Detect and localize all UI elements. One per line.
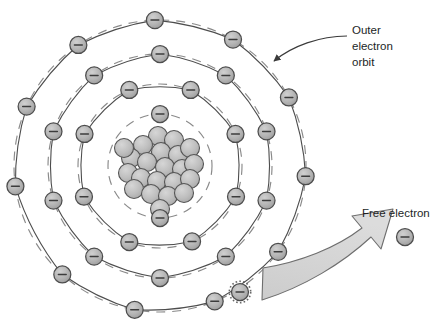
orbit-2-electron-3 bbox=[182, 81, 199, 98]
electron-connector bbox=[191, 90, 236, 134]
escaping-electron bbox=[229, 281, 250, 302]
nucleus bbox=[115, 127, 204, 219]
orbit-4-outer-electron-5 bbox=[280, 89, 297, 106]
orbit-3-electron-4 bbox=[217, 67, 234, 84]
orbit-4-outer-electron-6 bbox=[297, 168, 314, 185]
free-electron-label: Free electron bbox=[362, 207, 430, 219]
orbit-1-inner-electron-1 bbox=[152, 106, 169, 123]
orbit-4-outer-electron-1 bbox=[18, 98, 35, 115]
outer-orbit-label: Outer electron orbit bbox=[352, 24, 393, 68]
electron-connector bbox=[226, 75, 267, 131]
outer-orbit-label-line3: orbit bbox=[352, 56, 375, 68]
electron-connector bbox=[62, 275, 134, 310]
electron-connector bbox=[94, 257, 160, 278]
orbit-2-electron-4 bbox=[227, 125, 244, 142]
electron-connector bbox=[235, 134, 239, 197]
orbit-3-electron-3 bbox=[152, 46, 169, 63]
electron-connector bbox=[53, 75, 94, 131]
electron-connector bbox=[27, 45, 79, 107]
orbit-4-outer-electron-2 bbox=[70, 36, 87, 53]
orbit-4-outer-electron-8 bbox=[206, 293, 223, 310]
electron-connector bbox=[278, 176, 306, 252]
outer-orbit-label-line1: Outer bbox=[352, 24, 381, 36]
free-electron-disc bbox=[397, 229, 414, 246]
orbit-3-electron-7 bbox=[217, 248, 234, 265]
orbit-2-electron-2 bbox=[121, 81, 138, 98]
orbit-3-electron-6 bbox=[258, 192, 275, 209]
orbit-3-electron-8 bbox=[152, 270, 169, 287]
electron-connector bbox=[84, 197, 129, 242]
electron-connector bbox=[94, 54, 160, 75]
orbit-2-electron-1 bbox=[76, 125, 93, 142]
electron-connector bbox=[233, 40, 289, 98]
nucleon-19 bbox=[175, 184, 194, 203]
nucleon-20 bbox=[115, 139, 134, 158]
orbit-2-electron-0 bbox=[75, 188, 92, 205]
orbit-3-electron-5 bbox=[258, 123, 275, 140]
orbit-2-electron-6 bbox=[184, 233, 201, 250]
orbit-4-outer-electron-10 bbox=[54, 266, 71, 283]
nucleon-16 bbox=[125, 180, 144, 199]
electron-connector bbox=[85, 90, 130, 134]
outer-orbit-leader-line bbox=[274, 36, 347, 61]
escaping-electron-disc bbox=[229, 281, 250, 302]
orbit-4-outer-electron-3 bbox=[146, 12, 163, 29]
figure-canvas: Outer electron orbit Free electron bbox=[0, 0, 438, 330]
orbit-2-electron-5 bbox=[228, 188, 245, 205]
electron-connector bbox=[160, 54, 226, 75]
electron-connector bbox=[226, 201, 267, 257]
orbit-4-outer-electron-0 bbox=[7, 178, 24, 195]
orbit-1-inner-electron-0 bbox=[152, 210, 169, 227]
electron-connector bbox=[129, 241, 192, 245]
orbit-3-electron-0 bbox=[45, 192, 62, 209]
orbit-3-electron-2 bbox=[86, 67, 103, 84]
free-electron bbox=[397, 229, 414, 246]
orbit-4-outer-electron-4 bbox=[225, 31, 242, 48]
orbit-4-outer-electron-9 bbox=[126, 301, 143, 318]
electron-connector bbox=[78, 20, 155, 45]
orbit-2-electron-7 bbox=[121, 234, 138, 251]
orbit-3-electron-1 bbox=[45, 123, 62, 140]
electron-connector bbox=[192, 197, 236, 242]
electron-connector bbox=[135, 301, 215, 310]
electron-connector bbox=[155, 20, 233, 39]
orbit-3-electron-9 bbox=[86, 248, 103, 265]
electron-connector bbox=[15, 107, 26, 187]
atom-diagram: Outer electron orbit Free electron bbox=[0, 0, 438, 330]
electron-connector bbox=[160, 257, 226, 278]
outer-orbit-label-line2: electron bbox=[352, 40, 393, 52]
orbit-4-outer-electron-7 bbox=[270, 243, 287, 260]
electron-connector bbox=[53, 201, 94, 257]
